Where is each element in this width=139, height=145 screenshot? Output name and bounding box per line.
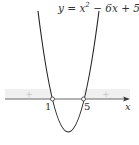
root-label-1: 1 <box>45 101 51 112</box>
plus-sign-right: + <box>102 89 110 99</box>
plus-sign-left: + <box>25 89 33 99</box>
equation-prefix: y = x <box>58 2 85 14</box>
root-label-5: 5 <box>84 101 90 112</box>
equation-suffix: − 6x + 5 <box>90 2 139 14</box>
equation-label: y = x2 − 6x + 5 <box>58 1 139 14</box>
x-axis-label: x <box>125 101 131 112</box>
parabola-curve <box>38 11 99 132</box>
parabola-chart: + + <box>0 0 139 145</box>
